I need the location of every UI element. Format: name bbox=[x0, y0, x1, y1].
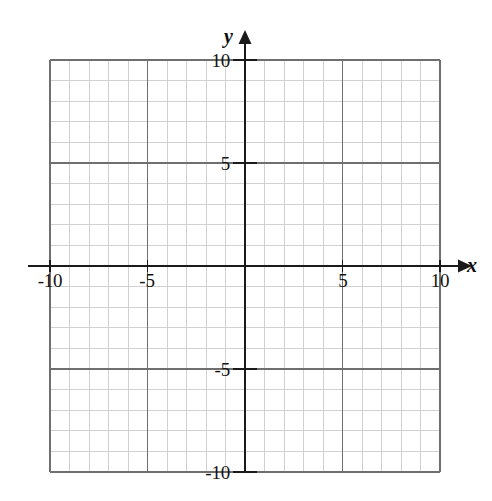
x-axis-name-label: x bbox=[467, 255, 477, 275]
y-axis-name-label: y bbox=[224, 26, 233, 46]
y-tick-label-10: 10 bbox=[180, 51, 230, 70]
x-tick-label-neg5: -5 bbox=[124, 271, 170, 290]
y-tick-label-5: 5 bbox=[180, 154, 230, 173]
x-tick-label-5: 5 bbox=[322, 271, 364, 290]
y-axis bbox=[239, 30, 252, 472]
x-axis bbox=[28, 260, 472, 273]
coordinate-plane-svg bbox=[0, 0, 492, 501]
x-tick-label-10: 10 bbox=[416, 271, 464, 290]
coordinate-grid-figure: 10 5 -5 -10 -10 -5 5 10 y x bbox=[0, 0, 492, 501]
y-axis-arrowhead bbox=[239, 30, 252, 44]
x-tick-label-neg10: -10 bbox=[25, 271, 75, 290]
y-tick-label-neg5: -5 bbox=[180, 360, 230, 379]
y-tick-label-neg10: -10 bbox=[180, 463, 230, 482]
